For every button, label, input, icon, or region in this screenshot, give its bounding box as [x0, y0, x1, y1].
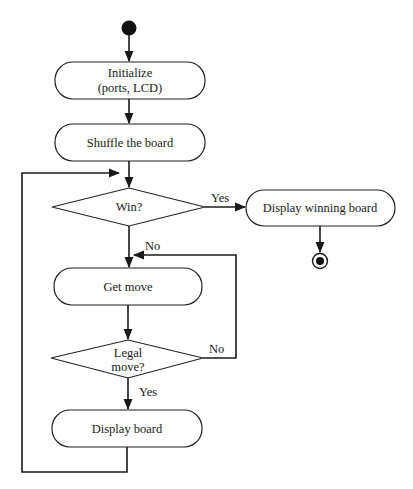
node-win-decision: Win? [52, 188, 205, 226]
legal-no-label: No [209, 342, 224, 356]
shuffle-label: Shuffle the board [87, 136, 174, 150]
display-board-label: Display board [92, 422, 163, 436]
get-move-label: Get move [104, 280, 153, 294]
node-legal-move-decision: Legal move? [51, 340, 203, 378]
win-no-label: No [145, 239, 160, 253]
initialize-label-line2: (ports, LCD) [98, 81, 163, 95]
final-node-icon [313, 254, 328, 269]
node-get-move: Get move [54, 268, 202, 305]
legal-label-line1: Legal [114, 346, 143, 360]
node-display-board: Display board [52, 410, 202, 447]
legal-yes-label: Yes [139, 385, 157, 399]
activity-diagram: Initialize (ports, LCD) Shuffle the boar… [0, 0, 413, 489]
node-shuffle: Shuffle the board [55, 124, 205, 161]
initialize-label-line1: Initialize [108, 66, 153, 80]
node-initialize: Initialize (ports, LCD) [55, 62, 205, 99]
node-display-winning-board: Display winning board [246, 190, 395, 226]
display-winning-label: Display winning board [263, 201, 378, 215]
initial-node-icon [122, 21, 137, 36]
win-yes-label: Yes [211, 191, 229, 205]
win-label: Win? [116, 200, 143, 214]
legal-label-line2: move? [111, 360, 145, 374]
